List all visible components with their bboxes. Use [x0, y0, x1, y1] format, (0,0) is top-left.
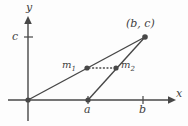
- point-label-m1: m1: [62, 60, 76, 73]
- point-vertex-bc: [142, 34, 148, 40]
- point-label-m2-subscript: 2: [130, 65, 134, 73]
- tick-label-b: b: [139, 104, 146, 115]
- point-origin: [25, 97, 30, 102]
- point-label-vertex-bc: (b, c): [126, 18, 155, 29]
- point-m2: [113, 65, 118, 70]
- tick-label-a: a: [84, 104, 91, 115]
- x-axis-arrowhead: [168, 96, 176, 104]
- point-m1: [84, 65, 89, 70]
- x-axis-label: x: [176, 88, 182, 99]
- tick-label-c: c: [12, 31, 18, 42]
- figure-canvas: [0, 0, 188, 126]
- point-label-m1-subscript: 1: [71, 65, 75, 73]
- y-axis-arrowhead: [24, 16, 32, 24]
- point-a: [85, 97, 90, 102]
- point-label-m2: m2: [121, 60, 135, 73]
- geometry-figure: y x c a b m1 m2 (b, c): [0, 0, 188, 126]
- y-axis-label: y: [26, 2, 32, 13]
